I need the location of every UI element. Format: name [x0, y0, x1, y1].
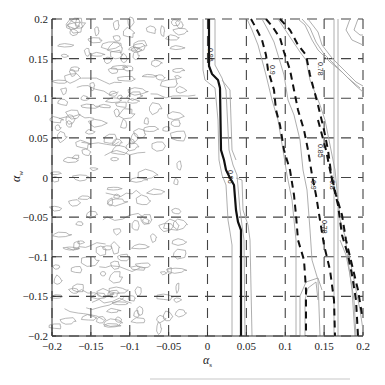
x-ticks: −0.2−0.15−0.1−0.0500.050.10.150.2 [42, 332, 370, 352]
x-tick-label: 0.05 [237, 340, 257, 352]
y-tick-label: 0.15 [29, 53, 49, 65]
label-08: 0.8 [329, 180, 336, 190]
x-tick-label: −0.1 [120, 340, 140, 352]
label-085: 0.85 [317, 144, 324, 158]
x-axis-label: αs [203, 353, 212, 369]
y-tick-label: −0.1 [28, 251, 48, 263]
x-tick-label: 0 [205, 340, 211, 352]
y-tick-label: −0.05 [23, 211, 49, 223]
x-tick-label: 0.1 [278, 340, 292, 352]
label-078-top: 0.78 [317, 62, 324, 76]
noise-contours [49, 17, 195, 335]
x-tick-label: 0.2 [356, 340, 370, 352]
label-096-mid: 0.96 [227, 170, 234, 184]
y-tick-label: −0.15 [23, 290, 49, 302]
x-tick-label: −0.05 [156, 340, 182, 352]
y-tick-label: 0.1 [34, 92, 48, 104]
label-096-top: 0.96 [207, 48, 214, 62]
label-078-mid: 0.78 [321, 220, 328, 234]
figure-caption-faint [150, 376, 385, 382]
label-09-top: 0.9 [269, 65, 276, 75]
y-tick-label: 0.05 [29, 132, 49, 144]
contour-labels: 0.96 0.96 0.9 0.9 0.85 0.8 0.78 0.78 [207, 48, 336, 234]
label-09-mid: 0.9 [310, 180, 317, 190]
y-tick-label: 0 [43, 172, 49, 184]
y-tick-label: −0.2 [28, 330, 48, 342]
y-axis-label: αw [9, 170, 25, 182]
x-tick-label: 0.15 [315, 340, 335, 352]
x-tick-label: −0.15 [78, 340, 104, 352]
y-ticks: 0.20.150.10.050−0.05−0.1−0.15−0.2 [23, 13, 56, 342]
contour-chart: 0.96 0.96 0.9 0.9 0.85 0.8 0.78 0.78 −0.… [0, 0, 385, 385]
y-tick-label: 0.2 [34, 13, 48, 25]
